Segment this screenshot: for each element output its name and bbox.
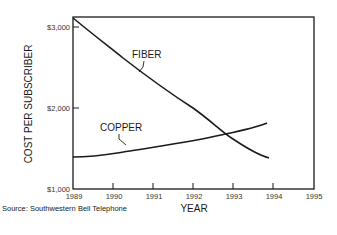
source-note: Source: Southwestern Bell Telephone <box>2 204 127 213</box>
y-axis-title: COST PER SUBSCRIBER <box>23 45 34 164</box>
copper-label: COPPER <box>100 122 142 133</box>
x-tick-label-1995: 1995 <box>306 192 323 201</box>
x-axis-title: YEAR <box>180 203 207 214</box>
x-tick-label-1994: 1994 <box>266 192 283 201</box>
fiber-label: FIBER <box>132 49 161 60</box>
x-tick-label-1993: 1993 <box>226 192 243 201</box>
copper-leader <box>119 134 126 145</box>
x-tick-label-1991: 1991 <box>146 192 163 201</box>
fiber-line <box>73 18 269 158</box>
y-tick-label-3000: $3,000 <box>47 23 70 32</box>
plot-frame <box>73 17 314 189</box>
x-tick-label-1992: 1992 <box>186 192 203 201</box>
y-tick-label-2000: $2,000 <box>47 104 70 113</box>
cost-chart: $3,000 $2,000 $1,000 1989 1990 1991 1992… <box>0 0 337 235</box>
x-tick-label-1990: 1990 <box>106 192 123 201</box>
x-tick-label-1989: 1989 <box>66 192 83 201</box>
fiber-leader <box>139 61 144 72</box>
